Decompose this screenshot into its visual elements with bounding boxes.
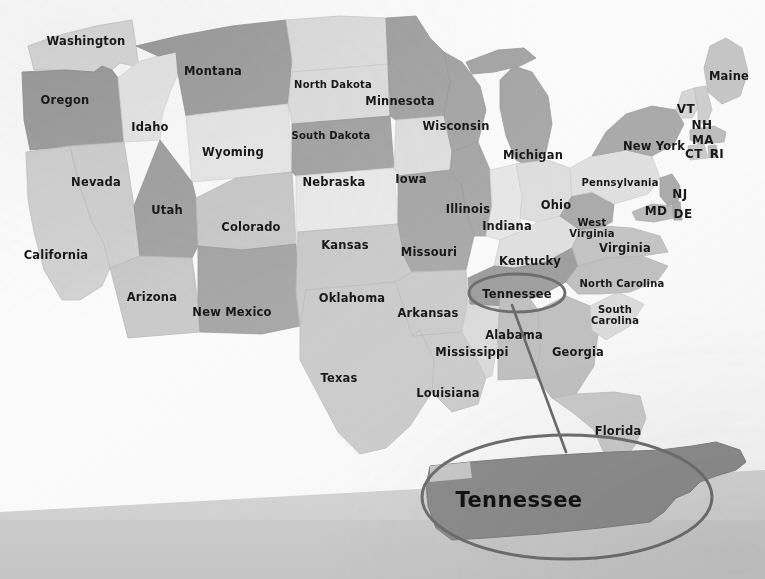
state-label-wyoming: Wyoming [202, 145, 264, 159]
state-label-illinois: Illinois [446, 202, 491, 216]
state-label-arizona: Arizona [127, 290, 177, 304]
state-label-new-mexico: New Mexico [192, 305, 271, 319]
map-screenshot: WashingtonOregonCaliforniaNevadaIdahoMon… [0, 0, 765, 579]
state-label-minnesota: Minnesota [365, 94, 434, 108]
state-label-north-dakota: North Dakota [294, 79, 372, 90]
state-label-kentucky: Kentucky [499, 254, 561, 268]
state-abbr-new-jersey: NJ [672, 187, 687, 201]
state-label-texas: Texas [320, 371, 357, 385]
tennessee-inset-label: Tennessee [455, 488, 582, 512]
state-label-nebraska: Nebraska [303, 175, 366, 189]
state-abbr-vermont: VT [677, 102, 696, 116]
state-label-pennsylvania: Pennsylvania [581, 177, 658, 188]
state-label-utah: Utah [151, 203, 183, 217]
state-label-missouri: Missouri [401, 245, 457, 259]
state-label-louisiana: Louisiana [416, 386, 480, 400]
state-abbr-massachusetts: MA [692, 133, 714, 147]
state-label-indiana: Indiana [482, 219, 532, 233]
state-label-idaho: Idaho [131, 120, 168, 134]
state-label-alabama: Alabama [485, 328, 543, 342]
state-label-oregon: Oregon [41, 93, 90, 107]
state-label-south-carolina: SouthCarolina [591, 304, 639, 326]
state-label-maine: Maine [709, 69, 749, 83]
state-label-colorado: Colorado [221, 220, 280, 234]
state-abbr-new-hampshire: NH [692, 118, 713, 132]
state-label-arkansas: Arkansas [397, 306, 458, 320]
state-label-washington: Washington [46, 34, 125, 48]
map-body [0, 0, 765, 520]
state-label-mississippi: Mississippi [435, 345, 508, 359]
state-label-iowa: Iowa [395, 172, 426, 186]
state-label-new-york: New York [623, 139, 685, 153]
state-abbr-rhode-island: RI [710, 147, 725, 161]
state-label-virginia: Virginia [599, 241, 651, 255]
state-label-tennessee: Tennessee [482, 287, 551, 301]
state-abbr-connecticut: CT [685, 147, 703, 161]
state-label-oklahoma: Oklahoma [319, 291, 386, 305]
state-abbr-maryland: MD [645, 204, 668, 218]
state-label-georgia: Georgia [552, 345, 604, 359]
state-label-ohio: Ohio [541, 198, 572, 212]
state-label-michigan: Michigan [503, 148, 563, 162]
state-label-montana: Montana [184, 64, 242, 78]
state-label-nevada: Nevada [71, 175, 121, 189]
state-label-north-carolina: North Carolina [580, 278, 665, 289]
state-label-wisconsin: Wisconsin [422, 119, 489, 133]
state-label-south-dakota: South Dakota [292, 130, 371, 141]
state-label-kansas: Kansas [321, 238, 369, 252]
state-abbr-delaware: DE [674, 207, 693, 221]
us-map-figure: WashingtonOregonCaliforniaNevadaIdahoMon… [0, 0, 765, 579]
state-label-california: California [24, 248, 89, 262]
